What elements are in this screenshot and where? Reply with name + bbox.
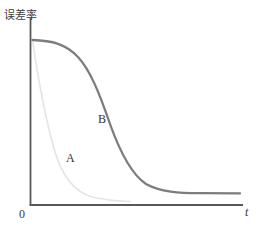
- curve-a-path: [33, 40, 131, 202]
- plot-canvas: [0, 0, 265, 232]
- curve-label-a: A: [66, 152, 75, 164]
- y-axis-title: 误差率: [4, 10, 37, 21]
- origin-label: 0: [19, 208, 25, 220]
- curve-b-path: [33, 40, 241, 193]
- error-rate-chart: 误差率 t 0 A B: [0, 0, 265, 232]
- x-axis-title: t: [245, 206, 248, 218]
- curve-label-b: B: [98, 113, 106, 125]
